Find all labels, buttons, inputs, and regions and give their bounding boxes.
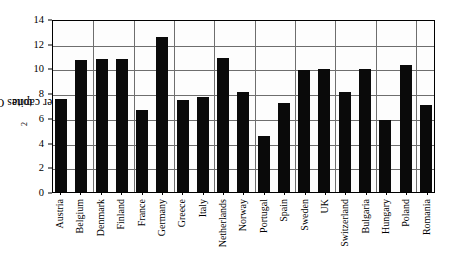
x-tick-label: Romania: [422, 199, 432, 235]
x-tick-label: Germany: [157, 199, 167, 236]
y-tick-label: 6: [22, 114, 48, 125]
bar: [420, 105, 432, 192]
x-tick-label: Portugal: [259, 199, 269, 233]
bar: [177, 100, 189, 192]
bar: [136, 110, 148, 192]
bar: [237, 92, 249, 192]
bar: [75, 60, 87, 192]
x-tick-label: Finland: [116, 199, 126, 230]
x-tick-group: Greece: [176, 195, 188, 273]
y-tick-label: 4: [22, 138, 48, 149]
bar-series: [53, 21, 434, 192]
x-tick-label: Sweden: [300, 199, 310, 231]
bar: [339, 92, 351, 192]
y-tick-label: 0: [22, 188, 48, 199]
x-tick-label: Hungary: [381, 199, 391, 234]
x-tick-label: Bulgaria: [361, 199, 371, 233]
x-tick-label: Spain: [279, 199, 289, 222]
bar: [55, 99, 67, 192]
y-tick-label: 10: [22, 64, 48, 75]
x-tick-group: Austria: [54, 195, 66, 273]
x-axis-labels: AustriaBelgiumDenmarkFinlandFranceGerman…: [52, 195, 435, 273]
bar: [298, 70, 310, 192]
x-tick-group: Bulgaria: [360, 195, 372, 273]
x-tick-label: Belgium: [75, 199, 85, 233]
bar-chart: tones CO2 per capita 02468101214 Austria…: [0, 0, 457, 275]
x-tick-label: Italy: [198, 199, 208, 217]
x-tick-label: Netherlands: [218, 199, 228, 247]
x-tick-label: Switzerland: [340, 199, 350, 247]
y-tick-label: 8: [22, 89, 48, 100]
plot-area: [52, 20, 435, 193]
x-tick-label: Austria: [55, 199, 65, 228]
y-tick-label: 12: [22, 39, 48, 50]
bar: [96, 59, 108, 192]
x-tick-group: Netherlands: [217, 195, 229, 273]
x-tick-label: Norway: [238, 199, 248, 231]
x-tick-group: UK: [319, 195, 331, 273]
bar: [197, 97, 209, 192]
x-tick-group: Finland: [115, 195, 127, 273]
x-tick-label: UK: [320, 199, 330, 213]
x-tick-group: Romania: [421, 195, 433, 273]
x-tick-group: France: [136, 195, 148, 273]
y-axis-ticks: 02468101214: [22, 20, 48, 193]
y-tick-label: 14: [22, 15, 48, 26]
x-tick-group: Switzerland: [339, 195, 351, 273]
x-tick-group: Hungary: [380, 195, 392, 273]
x-tick-group: Portugal: [258, 195, 270, 273]
x-tick-group: Germany: [156, 195, 168, 273]
x-tick-group: Belgium: [74, 195, 86, 273]
x-tick-group: Spain: [278, 195, 290, 273]
y-tick-label: 2: [22, 163, 48, 174]
x-tick-label: Greece: [177, 199, 187, 227]
x-tick-group: Norway: [237, 195, 249, 273]
bar: [400, 65, 412, 192]
bar: [379, 120, 391, 192]
bar: [359, 69, 371, 192]
x-tick-group: Denmark: [95, 195, 107, 273]
x-tick-group: Poland: [400, 195, 412, 273]
x-tick-group: Sweden: [299, 195, 311, 273]
bar: [258, 136, 270, 192]
bar: [156, 37, 168, 192]
bar: [318, 69, 330, 192]
bar: [116, 59, 128, 192]
x-tick-label: Poland: [401, 199, 411, 227]
bar: [217, 58, 229, 192]
x-tick-group: Italy: [197, 195, 209, 273]
x-tick-label: France: [137, 199, 147, 226]
x-tick-label: Denmark: [96, 199, 106, 236]
bar: [278, 103, 290, 192]
